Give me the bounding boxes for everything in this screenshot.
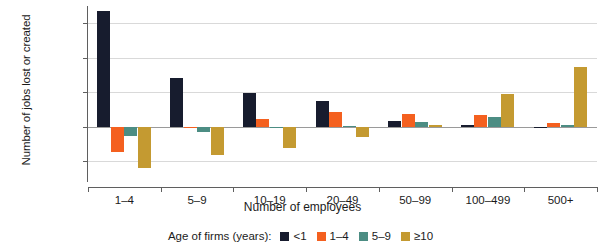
x-tick-mark	[597, 187, 598, 192]
bar	[388, 121, 401, 127]
plot-area: −250,0000250,000500,000750,000	[88, 6, 597, 182]
gridline	[88, 23, 597, 24]
bar	[256, 119, 269, 127]
bar	[138, 127, 151, 168]
bar	[343, 126, 356, 127]
bar	[547, 123, 560, 126]
bar	[356, 127, 369, 137]
x-tick-mark	[161, 187, 162, 192]
bar	[415, 122, 428, 127]
bar	[283, 127, 296, 148]
legend-swatch-icon	[280, 232, 289, 241]
x-axis-label: Number of employees	[0, 200, 605, 214]
bar	[488, 117, 501, 127]
zero-line	[88, 127, 597, 128]
bar	[211, 127, 224, 155]
bar	[243, 93, 256, 127]
gridline	[88, 92, 597, 93]
bar	[184, 127, 197, 128]
x-tick-mark	[524, 187, 525, 192]
bar	[402, 114, 415, 126]
bar	[197, 127, 210, 133]
bar	[170, 78, 183, 126]
legend-title: Age of firms (years):	[168, 230, 272, 242]
legend-item[interactable]: 1–4	[317, 230, 349, 242]
legend-swatch-icon	[359, 232, 368, 241]
bar	[329, 112, 342, 127]
bar	[316, 101, 329, 127]
legend-item[interactable]: <1	[280, 230, 306, 242]
legend-item-label: 5–9	[372, 230, 391, 242]
legend-swatch-icon	[401, 232, 410, 241]
bar	[561, 125, 574, 126]
bar	[461, 125, 474, 127]
bar	[270, 127, 283, 128]
bar	[574, 67, 587, 127]
x-tick-mark	[233, 187, 234, 192]
legend-swatch-icon	[317, 232, 326, 241]
legend: Age of firms (years): <11–45–9≥10	[0, 230, 605, 242]
x-tick-mark	[379, 187, 380, 192]
bar	[97, 11, 110, 127]
bar	[474, 115, 487, 127]
bar	[429, 125, 442, 127]
x-tick-mark	[306, 187, 307, 192]
bar	[501, 94, 514, 126]
bar	[534, 127, 547, 128]
legend-item[interactable]: ≥10	[401, 230, 433, 242]
y-axis-line	[87, 6, 88, 182]
x-tick-mark	[88, 187, 89, 192]
x-tick-mark	[452, 187, 453, 192]
y-axis-label: Number of jobs lost or created	[20, 0, 32, 180]
bar	[111, 127, 124, 152]
x-axis-line	[88, 187, 597, 188]
gridline	[88, 58, 597, 59]
legend-item[interactable]: 5–9	[359, 230, 391, 242]
legend-item-label: ≥10	[414, 230, 433, 242]
legend-item-label: <1	[293, 230, 306, 242]
gridline	[88, 161, 597, 162]
bar	[124, 127, 137, 136]
legend-item-label: 1–4	[330, 230, 349, 242]
bar-chart: Number of jobs lost or created −250,0000…	[0, 0, 605, 249]
